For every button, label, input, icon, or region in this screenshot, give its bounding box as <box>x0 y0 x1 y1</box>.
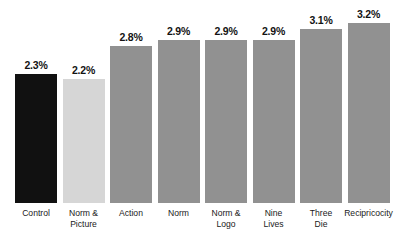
bar[interactable] <box>63 79 105 203</box>
bar[interactable] <box>205 40 247 203</box>
bar[interactable] <box>348 23 390 203</box>
bar[interactable] <box>300 29 342 203</box>
bar-value-label: 3.2% <box>340 8 398 20</box>
bar[interactable] <box>110 46 152 204</box>
bar-group[interactable]: 3.2%Recipricocity <box>348 0 390 250</box>
bar-value-label: 2.9% <box>245 25 303 37</box>
bar[interactable] <box>158 40 200 203</box>
bar-chart: 2.3%Control2.2%Norm & Picture2.8%Action2… <box>0 0 413 250</box>
bar[interactable] <box>253 40 295 203</box>
bar[interactable] <box>15 74 57 203</box>
plot-area: 2.3%Control2.2%Norm & Picture2.8%Action2… <box>0 0 413 250</box>
bar-value-label: 2.2% <box>55 64 113 76</box>
bar-category-label: Recipricocity <box>335 208 403 219</box>
